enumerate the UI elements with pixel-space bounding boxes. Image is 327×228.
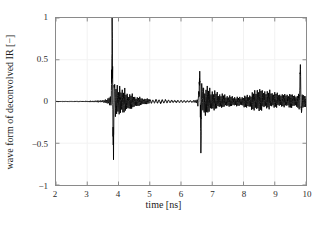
y-axis-title: wave form of deconvolved IR [−] xyxy=(4,34,15,169)
y-tick-label-neg1: −1 xyxy=(24,181,48,191)
x-tick-label-5: 5 xyxy=(147,189,152,199)
waveform-curve xyxy=(56,18,306,185)
y-tick-label-0.5: 0.5 xyxy=(24,54,48,64)
x-axis-title: time [ns] xyxy=(0,199,327,210)
plot-area xyxy=(55,17,307,186)
x-tick-label-7: 7 xyxy=(210,189,215,199)
x-tick-label-10: 10 xyxy=(303,189,312,199)
x-tick-label-4: 4 xyxy=(116,189,121,199)
chart-figure: wave form of deconvolved IR [−] 1 0.5 0 … xyxy=(0,0,327,228)
x-tick-label-9: 9 xyxy=(273,189,278,199)
x-tick-label-6: 6 xyxy=(179,189,184,199)
y-tick-label-neg0.5: −0.5 xyxy=(24,139,48,149)
x-tick-label-3: 3 xyxy=(84,189,89,199)
y-tick-label-0: 0 xyxy=(24,96,48,106)
y-axis-title-container: wave form of deconvolved IR [−] xyxy=(0,0,18,203)
x-tick-label-8: 8 xyxy=(242,189,247,199)
y-tick-label-1: 1 xyxy=(24,12,48,22)
x-tick-label-2: 2 xyxy=(53,189,58,199)
